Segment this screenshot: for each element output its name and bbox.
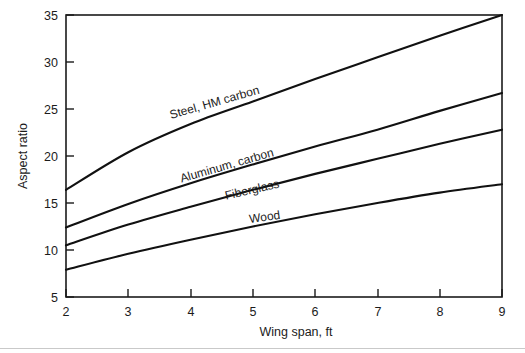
y-tick-label: 25 (44, 103, 58, 117)
y-tick-label: 35 (44, 9, 58, 23)
y-tick-label: 10 (44, 244, 58, 258)
x-tick-label: 4 (188, 305, 195, 319)
figure-background (0, 0, 525, 353)
x-tick-label: 2 (63, 305, 70, 319)
y-tick-label: 15 (44, 197, 58, 211)
x-tick-label: 7 (375, 305, 382, 319)
chart-figure: 35 30 25 20 15 10 5 Aspect ratio 2 3 4 5 (0, 0, 525, 353)
chart-canvas: 35 30 25 20 15 10 5 Aspect ratio 2 3 4 5 (0, 0, 525, 353)
x-tick-label: 9 (499, 305, 506, 319)
x-tick-label: 3 (125, 305, 132, 319)
y-tick-label: 30 (44, 56, 58, 70)
x-tick-label: 6 (312, 305, 319, 319)
x-tick-label: 8 (437, 305, 444, 319)
y-tick-label: 20 (44, 150, 58, 164)
y-axis-title: Aspect ratio (16, 123, 30, 189)
y-tick-label: 5 (51, 291, 58, 305)
x-axis-title: Wing span, ft (260, 325, 333, 339)
x-tick-label: 5 (250, 305, 257, 319)
